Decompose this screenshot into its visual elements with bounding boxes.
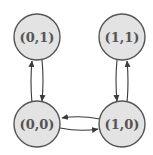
state-diagram: (0,1) (1,1) (0,0) (1,0) xyxy=(0,0,153,155)
edge-00-to-01 xyxy=(31,61,32,103)
node-label: (1,1) xyxy=(105,30,140,45)
node-label: (0,1) xyxy=(20,30,55,45)
node-1-1: (1,1) xyxy=(99,14,145,60)
node-label: (0,0) xyxy=(20,117,55,132)
node-1-0: (1,0) xyxy=(99,101,145,147)
edge-00-to-10 xyxy=(60,128,98,130)
node-label: (1,0) xyxy=(105,117,140,132)
edge-10-to-11 xyxy=(127,61,128,103)
node-0-1: (0,1) xyxy=(14,14,60,60)
edge-11-to-10 xyxy=(116,60,117,101)
node-0-0: (0,0) xyxy=(14,101,60,147)
edge-10-to-00 xyxy=(62,117,100,119)
edge-01-to-00 xyxy=(42,60,43,101)
